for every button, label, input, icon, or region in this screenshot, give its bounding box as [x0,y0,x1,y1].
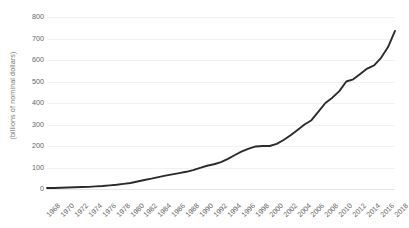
plot-area [47,17,395,189]
y-axis-tick-label: 500 [22,78,44,85]
series-line [47,17,395,189]
y-axis-tick-label: 300 [22,121,44,128]
y-axis-tick-label: 200 [22,142,44,149]
y-axis-tick-label: 100 [22,164,44,171]
x-axis-tick-labels: 1968197019721974197619781980198219841986… [47,190,395,228]
line-chart: (billions of nominal dollars) 8007006005… [0,0,409,228]
y-axis-title-text: (billions of nominal dollars) [8,51,17,139]
y-axis-tick-labels: 8007006005004003002001000 [20,0,44,228]
y-axis-tick-label: 600 [22,56,44,63]
y-axis-tick-label: 800 [22,13,44,20]
y-axis-tick-label: 700 [22,35,44,42]
y-axis-tick-label: 400 [22,99,44,106]
data-series-line [47,31,395,188]
y-axis-tick-label: 0 [22,185,44,192]
